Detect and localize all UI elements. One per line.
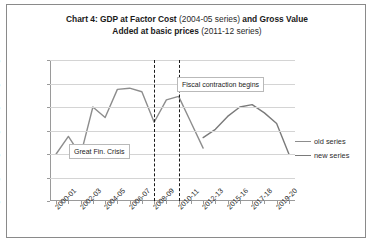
x-axis-labels: 2000-012002-032004-052006-072008-092010-… xyxy=(50,203,295,244)
y-axis-tick xyxy=(47,154,50,155)
y-axis-tick xyxy=(47,201,50,202)
gridline xyxy=(50,178,295,179)
chart-title: Chart 4: GDP at Factor Cost (2004-05 ser… xyxy=(37,14,337,37)
title-line2-part-1: Added at basic prices xyxy=(112,26,201,36)
legend-swatch-old-series xyxy=(295,141,311,142)
y-axis-tick xyxy=(47,131,50,132)
title-part-1: Chart 4: GDP at Factor Cost xyxy=(66,14,179,24)
legend-item-old-series: old series xyxy=(295,134,349,148)
chart-frame: Chart 4: GDP at Factor Cost (2004-05 ser… xyxy=(6,4,366,238)
title-part-2: (2004-05 series) xyxy=(179,14,242,24)
gridline xyxy=(50,107,295,108)
legend-label-new-series: new series xyxy=(314,151,349,160)
y-axis-tick xyxy=(47,60,50,61)
legend-swatch-new-series xyxy=(295,155,311,156)
y-axis-tick xyxy=(47,178,50,179)
legend-item-new-series: new series xyxy=(295,148,349,162)
legend-label-old-series: old series xyxy=(314,137,346,146)
title-part-3: and Gross Value xyxy=(242,14,308,24)
event-line-2008-09 xyxy=(154,60,155,201)
title-line2-part-2: (2011-12 series) xyxy=(201,26,261,36)
gridline xyxy=(50,131,295,132)
chart-legend: old series new series xyxy=(295,134,349,162)
y-axis-tick xyxy=(47,107,50,108)
annotation-fiscal-contraction: Fiscal contraction begins xyxy=(177,77,264,92)
line-new-series xyxy=(203,105,289,154)
gridline xyxy=(50,60,295,61)
annotation-great-fin-crisis: Great Fin. Crisis xyxy=(69,144,130,159)
y-axis-tick xyxy=(47,84,50,85)
